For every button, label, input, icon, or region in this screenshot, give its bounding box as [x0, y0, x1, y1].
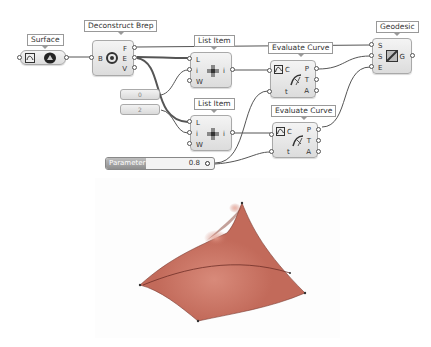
index-panel-0[interactable]: 0	[120, 89, 160, 100]
li2-input-i: i	[196, 130, 198, 138]
geodesic-label: Geodesic	[376, 21, 419, 33]
db-output-f-port[interactable]	[132, 45, 137, 50]
ec1-port-t[interactable]	[267, 89, 272, 94]
surface-render	[95, 178, 340, 338]
geo-input-e: E	[378, 64, 382, 72]
li2-port-out[interactable]	[230, 130, 235, 135]
evaluate-curve-1-node[interactable]: C t P T A	[270, 60, 316, 98]
grasshopper-canvas[interactable]: Surface Deconstruct Brep B F E V 0 2 Lis…	[0, 0, 431, 180]
geo-port-s2[interactable]	[369, 53, 374, 58]
slider-knob[interactable]	[205, 161, 210, 166]
li1-input-w: W	[196, 78, 203, 86]
geo-input-s1: S	[378, 42, 382, 50]
deconstruct-brep-icon	[105, 51, 119, 65]
li2-output-i: i	[223, 130, 225, 138]
ec2-port-tan[interactable]	[316, 138, 321, 143]
db-output-v-port[interactable]	[132, 65, 137, 70]
rhino-viewport[interactable]	[95, 178, 340, 338]
ec2-port-a[interactable]	[316, 149, 321, 154]
curve-param-icon	[276, 127, 285, 136]
list-item-2-node[interactable]: L i W i	[190, 115, 232, 151]
evaluate-curve-1-label: Evaluate Curve	[268, 42, 333, 54]
li2-input-l: L	[196, 119, 200, 127]
ec2-port-c[interactable]	[269, 132, 274, 137]
db-output-e: E	[123, 55, 127, 63]
evaluate-curve-icon	[289, 73, 303, 87]
li1-port-i[interactable]	[187, 67, 192, 72]
ec2-input-t: t	[287, 148, 290, 156]
li2-input-w: W	[196, 141, 203, 149]
li1-input-i: i	[196, 67, 198, 75]
li1-port-w[interactable]	[187, 78, 192, 83]
db-input-b: B	[98, 55, 103, 63]
wires	[0, 0, 431, 180]
db-input-b-port[interactable]	[89, 55, 94, 60]
li1-input-l: L	[196, 56, 200, 64]
parameter-slider[interactable]: Parameter 0.8	[105, 157, 215, 170]
slider-value: 0.8	[189, 158, 200, 169]
ec1-output-p: P	[305, 65, 309, 73]
list-item-1-node[interactable]: L i W i	[190, 52, 232, 88]
surface-shape	[140, 203, 305, 321]
geo-port-g[interactable]	[410, 53, 415, 58]
ec1-output-t: T	[305, 76, 309, 84]
ec2-output-a: A	[306, 148, 311, 156]
geodesic-node[interactable]: S S E G	[372, 38, 412, 74]
geo-port-e[interactable]	[369, 64, 374, 69]
index-panel-2[interactable]: 2	[120, 104, 160, 115]
db-output-f: F	[123, 45, 127, 53]
surface-label: Surface	[27, 34, 64, 46]
list-item-icon	[206, 127, 220, 141]
ec2-output-p: P	[307, 126, 311, 134]
li1-port-l[interactable]	[187, 56, 192, 61]
surface-param[interactable]	[20, 50, 66, 65]
deconstruct-brep-label: Deconstruct Brep	[84, 20, 157, 32]
surface-input-port[interactable]	[17, 55, 22, 60]
geo-port-s1[interactable]	[369, 42, 374, 47]
ec1-port-tan[interactable]	[314, 77, 319, 82]
evaluate-curve-icon	[291, 134, 305, 148]
ec2-port-t[interactable]	[269, 149, 274, 154]
db-output-v: V	[122, 65, 127, 73]
slider-label: Parameter	[106, 158, 146, 169]
evaluate-curve-2-label: Evaluate Curve	[271, 105, 336, 117]
ec2-port-p[interactable]	[316, 127, 321, 132]
li2-port-l[interactable]	[187, 119, 192, 124]
curve-param-icon	[274, 65, 283, 74]
surface-param-icon	[25, 53, 35, 63]
ec1-port-a[interactable]	[314, 88, 319, 93]
list-item-icon	[206, 64, 220, 78]
surface-icon	[43, 52, 57, 64]
list-item-1-label: List Item	[194, 35, 235, 47]
ec2-output-t: T	[307, 137, 311, 145]
surface-output-port[interactable]	[64, 55, 69, 60]
ec1-output-a: A	[304, 87, 309, 95]
li1-output-i: i	[223, 67, 225, 75]
evaluate-curve-2-node[interactable]: C t P T A	[272, 122, 318, 158]
ec1-port-p[interactable]	[314, 66, 319, 71]
ec1-port-c[interactable]	[267, 68, 272, 73]
list-item-2-label: List Item	[194, 98, 235, 110]
geodesic-icon	[386, 50, 398, 62]
li2-port-w[interactable]	[187, 141, 192, 146]
li1-port-out[interactable]	[230, 67, 235, 72]
li2-port-i[interactable]	[187, 130, 192, 135]
geo-output-g: G	[400, 53, 405, 61]
ec1-input-t: t	[285, 88, 288, 96]
geo-input-s2: S	[378, 53, 382, 61]
deconstruct-brep-node[interactable]: B F E V	[92, 40, 134, 76]
db-output-e-port[interactable]	[132, 55, 137, 60]
